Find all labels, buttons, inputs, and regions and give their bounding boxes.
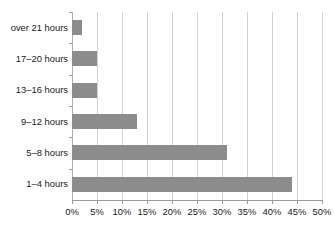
bar-row (72, 137, 322, 168)
plot-area (72, 12, 322, 200)
y-axis-tick (69, 43, 72, 44)
x-axis-tick (272, 200, 273, 204)
x-axis-tick (172, 200, 173, 204)
x-axis-tick-label: 25% (188, 207, 207, 216)
x-axis-tick-label: 45% (288, 207, 307, 216)
bar (72, 114, 137, 129)
y-axis-label: over 21 hours (0, 23, 68, 32)
y-axis-tick (69, 106, 72, 107)
x-axis-tick-label: 15% (138, 207, 157, 216)
x-axis-tick-label: 5% (90, 207, 104, 216)
y-axis-tick (69, 75, 72, 76)
bar (72, 83, 97, 98)
y-axis-label: 17–20 hours (0, 54, 68, 63)
x-axis-tick-label: 30% (213, 207, 232, 216)
bar (72, 145, 227, 160)
x-axis-tick (197, 200, 198, 204)
y-axis-tick (69, 12, 72, 13)
y-axis-tick (69, 137, 72, 138)
gridline (322, 12, 323, 200)
y-axis-label: 1–4 hours (0, 179, 68, 188)
x-axis-tick-label: 20% (163, 207, 182, 216)
x-axis-tick-label: 50% (313, 207, 332, 216)
bar-row (72, 106, 322, 137)
y-axis-labels: 1–4 hours5–8 hours9–12 hours13–16 hours1… (0, 12, 68, 200)
x-axis-tick (322, 200, 323, 204)
bar-row (72, 12, 322, 43)
x-axis-tick (97, 200, 98, 204)
bar (72, 51, 97, 66)
y-axis-label: 9–12 hours (0, 117, 68, 126)
bar-row (72, 43, 322, 74)
x-axis-tick (297, 200, 298, 204)
bar-row (72, 169, 322, 200)
x-axis-tick (72, 200, 73, 204)
bar-row (72, 75, 322, 106)
y-axis-tick (69, 169, 72, 170)
x-axis-tick (247, 200, 248, 204)
y-axis-label: 13–16 hours (0, 85, 68, 94)
x-axis-tick-label: 10% (113, 207, 132, 216)
y-axis-label: 5–8 hours (0, 148, 68, 157)
x-axis-tick-label: 35% (238, 207, 257, 216)
x-axis-tick (122, 200, 123, 204)
bar (72, 20, 82, 35)
x-axis-tick-label: 0% (65, 207, 79, 216)
bar (72, 177, 292, 192)
x-axis-tick (147, 200, 148, 204)
x-axis-tick (222, 200, 223, 204)
x-axis-tick-label: 40% (263, 207, 282, 216)
bar-chart: 1–4 hours5–8 hours9–12 hours13–16 hours1… (0, 0, 334, 231)
